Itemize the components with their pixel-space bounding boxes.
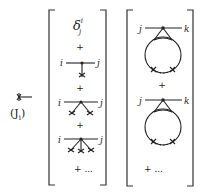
index-i: i — [58, 98, 61, 108]
index-j: j — [137, 24, 142, 34]
index-j: j — [95, 58, 100, 68]
left-bracket-open — [49, 10, 55, 185]
left-bracket-group: δij + i j + i j — [49, 10, 106, 185]
source-label: (Ji) — [10, 107, 25, 122]
index-i: i — [58, 135, 61, 145]
index-k: k — [184, 96, 189, 106]
tree-diagram-2-legs: i j — [58, 98, 103, 115]
source-cross-icon — [88, 148, 94, 152]
right-bracket-group: j k + j k — [127, 10, 193, 186]
index-j: j — [137, 96, 142, 106]
source-cross-icon — [69, 111, 75, 115]
source-cross-icon — [87, 111, 93, 115]
index-j: j — [98, 98, 103, 108]
plus-sign: + — [158, 80, 166, 90]
plus-sign: + — [76, 42, 84, 52]
ellipsis-term: + ... — [74, 164, 93, 174]
tree-diagram-1-leg: i j — [60, 58, 100, 77]
index-k: k — [184, 24, 189, 34]
source-term: (Ji) — [10, 93, 32, 122]
kronecker-delta: δij — [73, 17, 83, 36]
loop-diagram-1: j k — [137, 24, 189, 73]
ellipsis-term: + ... — [144, 164, 163, 174]
plus-sign: + — [76, 120, 84, 130]
source-cross-icon — [68, 148, 74, 152]
diagram-canvas: (Ji) δij + i j + i j — [0, 0, 210, 194]
index-i: i — [60, 58, 63, 68]
index-j: j — [98, 135, 103, 145]
loop-diagram-2: j k — [137, 96, 189, 145]
right-bracket-open — [127, 10, 133, 186]
plus-sign: + — [76, 83, 84, 93]
crossed-arrow-icon — [17, 93, 32, 101]
tree-diagram-3-legs: i j — [58, 135, 103, 153]
